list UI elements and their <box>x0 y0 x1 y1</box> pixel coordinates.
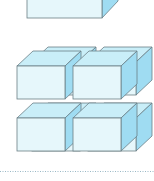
cube-bottom-front-left <box>17 103 81 151</box>
cube-top-front-left <box>17 51 81 99</box>
cube-bottom-front-right <box>73 103 137 151</box>
cube-diagram <box>0 0 154 181</box>
cube-stack <box>17 47 152 151</box>
top-prism <box>27 0 118 18</box>
cube-top-front-right <box>73 51 137 99</box>
